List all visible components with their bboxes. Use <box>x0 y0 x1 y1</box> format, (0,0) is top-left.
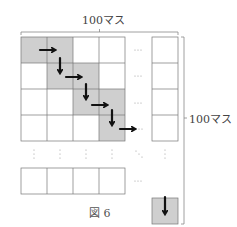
right-bracket <box>181 37 187 224</box>
figure-caption: 図 6 <box>89 204 111 220</box>
top-bracket <box>21 29 178 35</box>
top-dimension-label: 100マス <box>82 11 125 27</box>
right-dimension-label: 100マス <box>189 110 232 126</box>
vertical-ellipses <box>33 149 165 158</box>
shaded-cells <box>21 37 178 224</box>
diagonal-ellipsis <box>135 150 142 157</box>
horizontal-ellipses <box>134 49 142 181</box>
right-column <box>152 37 178 141</box>
